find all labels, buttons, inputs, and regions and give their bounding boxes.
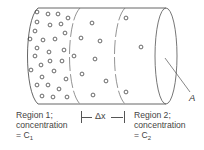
- region2-value: = C2: [134, 130, 186, 140]
- region2-concentration-text: concentration: [134, 120, 186, 130]
- region1-title: Region 1;: [16, 110, 68, 120]
- particle-dot: [66, 16, 70, 20]
- particle-dot: [51, 95, 55, 99]
- delta-x-dimension: Δx: [81, 110, 125, 124]
- particle-dot: [40, 75, 44, 79]
- particle-dot: [33, 29, 37, 33]
- dim-arrow-right: [111, 117, 123, 118]
- particle-dot: [35, 20, 39, 24]
- particle-dot: [91, 93, 95, 97]
- particle-dot: [35, 83, 39, 87]
- region1-value: = C1: [16, 130, 68, 140]
- particle-dot: [35, 46, 39, 50]
- region2-title: Region 2;: [134, 110, 186, 120]
- area-leader-line: [165, 58, 190, 92]
- particle-dot: [104, 79, 108, 83]
- dim-tick-right: [124, 111, 125, 123]
- particle-dot: [56, 12, 60, 16]
- region2-label: Region 2; concentration = C2: [134, 110, 186, 140]
- particle-dot: [98, 39, 102, 43]
- particle-dot: [39, 63, 43, 67]
- particle-dot: [46, 83, 50, 87]
- particle-dot: [48, 23, 52, 27]
- particle-dot: [72, 54, 76, 58]
- particle-dot: [124, 90, 128, 94]
- particle-dot: [63, 31, 67, 35]
- region1-concentration-text: concentration: [16, 120, 68, 130]
- particle-dot: [48, 59, 52, 63]
- particle-dot: [57, 87, 61, 91]
- cross-section-ellipse: [155, 8, 177, 104]
- particle-dot: [93, 57, 97, 61]
- particle-dot: [52, 69, 56, 73]
- particles: [28, 10, 143, 99]
- particle-dot: [41, 38, 45, 42]
- particle-dot: [80, 72, 84, 76]
- dim-arrow-left: [82, 117, 92, 118]
- boundary-right-dashed: [115, 8, 126, 104]
- delta-x-label: Δx: [95, 111, 106, 121]
- region1-label: Region 1; concentration = C1: [16, 110, 68, 140]
- particle-dot: [40, 94, 44, 98]
- particle-dot: [65, 95, 69, 99]
- particle-dot: [59, 22, 63, 26]
- particle-dot: [79, 36, 83, 40]
- cylinder-body: [28, 8, 167, 104]
- particle-dot: [62, 48, 66, 52]
- particle-dot: [139, 45, 143, 49]
- particle-dot: [35, 10, 39, 14]
- particle-dot: [90, 21, 94, 25]
- area-label: A: [189, 92, 195, 103]
- boundary-left-dashed: [70, 8, 81, 104]
- particle-dot: [124, 16, 128, 20]
- particle-dot: [29, 68, 33, 72]
- particle-dot: [53, 37, 57, 41]
- particle-dot: [60, 59, 64, 63]
- particle-dot: [46, 12, 50, 16]
- particle-dot: [64, 77, 68, 81]
- particle-dot: [47, 50, 51, 54]
- particle-dot: [33, 54, 37, 58]
